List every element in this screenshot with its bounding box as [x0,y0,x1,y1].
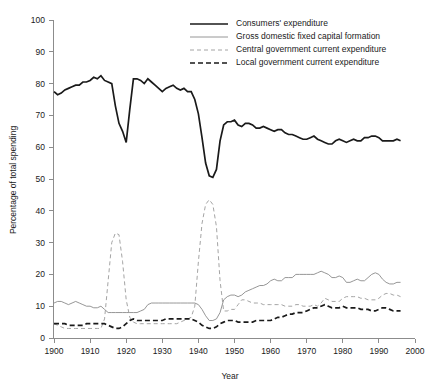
legend-label-1: Gross domestic fixed capital formation [236,31,380,41]
x-tick-label: 1900 [45,346,64,356]
y-tick-label: 100 [31,15,45,25]
spending-line-chart: Percentage of total spending Year 010203… [0,0,426,386]
legend-label-3: Local government current expenditure [236,57,379,67]
x-tick-label: 1950 [225,346,244,356]
y-tick-label: 70 [36,110,46,120]
y-tick-label: 90 [36,47,46,57]
y-tick-label: 50 [36,174,46,184]
x-tick-label: 1980 [333,346,352,356]
y-tick-label: 80 [36,79,46,89]
legend-label-0: Consumers' expenditure [236,18,328,28]
y-tick-label: 10 [36,301,46,311]
x-tick-label: 1970 [297,346,316,356]
x-tick-label: 1940 [189,346,208,356]
chart-container: Percentage of total spending Year 010203… [0,0,426,386]
y-tick-label: 40 [36,206,46,216]
x-tick-label: 1990 [369,346,388,356]
x-tick-label: 1960 [261,346,280,356]
y-tick-label: 0 [40,333,45,343]
legend-label-2: Central government current expenditure [236,44,387,54]
y-tick-label: 60 [36,142,46,152]
y-tick-label: 20 [36,269,46,279]
x-tick-label: 1920 [117,346,136,356]
x-tick-label: 2000 [406,346,425,356]
y-axis-title: Percentage of total spending [8,126,18,234]
y-tick-label: 30 [36,238,46,248]
x-axis-title: Year [221,371,238,381]
x-tick-label: 1910 [81,346,100,356]
x-tick-label: 1930 [153,346,172,356]
